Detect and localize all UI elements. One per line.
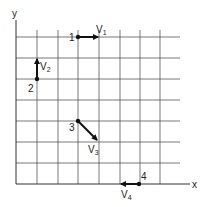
point-3: 3 V3 — [69, 119, 99, 156]
vector-v1-label: V1 — [96, 24, 107, 36]
vector-v2-label: V2 — [40, 61, 51, 73]
velocity-vector-diagram: y x 1 V1 2 V2 3 V3 4 V4 — [0, 0, 210, 207]
vector-v3-label: V3 — [88, 144, 99, 156]
point-3-label: 3 — [69, 122, 75, 133]
vector-v3-arrow — [78, 121, 97, 140]
grid — [16, 30, 180, 184]
vector-v4-label: V4 — [121, 189, 132, 201]
y-axis-label: y — [12, 8, 17, 19]
x-axis-label: x — [192, 179, 197, 190]
point-4: 4 V4 — [121, 171, 147, 201]
point-1-label: 1 — [69, 32, 75, 43]
point-4-label: 4 — [141, 171, 147, 182]
point-1: 1 V1 — [69, 24, 107, 43]
point-2-label: 2 — [28, 83, 34, 94]
point-2: 2 V2 — [28, 59, 51, 94]
